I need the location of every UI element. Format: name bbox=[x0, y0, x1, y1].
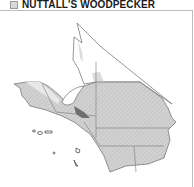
main-range-region bbox=[14, 82, 176, 172]
distribution-map bbox=[0, 0, 194, 187]
channel-islands bbox=[33, 130, 81, 166]
